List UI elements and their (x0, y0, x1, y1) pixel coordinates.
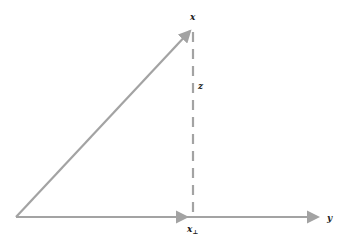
label-x-perp: x⊥ (186, 224, 198, 235)
vector-diagram: x z y x⊥ (0, 0, 351, 242)
label-z: z (197, 81, 204, 91)
label-y: y (326, 213, 333, 223)
label-x: x (189, 12, 196, 22)
x-vector-arrow (16, 31, 190, 217)
label-x-perp-subscript: ⊥ (192, 228, 198, 235)
